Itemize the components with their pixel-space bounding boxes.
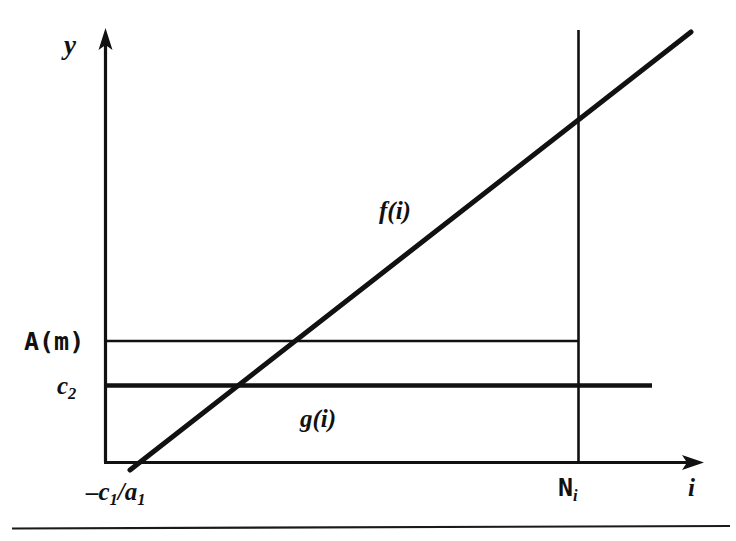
figure-canvas: y i f(i) g(i) A(m) c2 –c1/a1 Ni (0, 0, 736, 541)
ni-axis-label-base: N (558, 473, 573, 502)
x-intercept-label-sub2: 1 (137, 490, 145, 509)
ni-axis-label: Ni (558, 475, 578, 504)
c2-axis-label-subscript: 2 (68, 384, 76, 403)
x-intercept-label: –c1/a1 (86, 479, 146, 508)
g-curve-label: g(i) (300, 406, 336, 431)
c2-axis-label-base: c (57, 372, 68, 399)
c2-axis-label: c2 (57, 373, 76, 402)
plot-svg (0, 0, 736, 541)
footer-rule (12, 526, 730, 529)
x-intercept-label-part2: /a (118, 478, 137, 505)
y-axis-label: y (64, 32, 76, 59)
f-curve-label: f(i) (379, 198, 411, 223)
a-of-m-axis-label: A(m) (24, 329, 84, 354)
x-axis-label: i (688, 475, 695, 500)
y-axis (99, 28, 113, 462)
f-curve-line (130, 32, 691, 470)
x-axis (104, 455, 704, 470)
x-intercept-label-sub1: 1 (110, 490, 118, 509)
x-intercept-label-part1: –c (86, 478, 110, 505)
ni-axis-label-subscript: i (573, 486, 578, 505)
